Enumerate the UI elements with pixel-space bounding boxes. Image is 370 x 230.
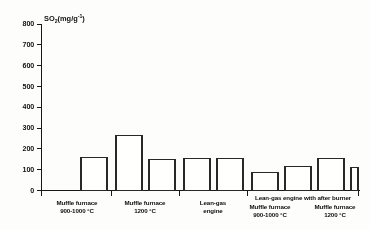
y-axis-title-end: ) [82, 14, 85, 23]
so2-bar-chart: SO2(mg/g-1) 0 100 200 300 400 500 600 70… [0, 0, 370, 230]
y-axis-title-base: SO [44, 14, 55, 23]
y-tick-label-300: 300 [23, 124, 35, 132]
y-tick-label-0: 0 [30, 187, 34, 195]
bar-9 [351, 168, 358, 191]
bar-3 [149, 159, 175, 190]
bar-5 [217, 158, 243, 190]
category-label-group-4a: Muffle furnace 900-1000 °C [250, 203, 292, 218]
bar-6 [252, 173, 278, 191]
group-4a-line-2: 900-1000 °C [253, 211, 287, 218]
y-axis-title-mid: (mg/g [58, 14, 79, 23]
category-label-group-2: Muffle furnace 1200 °C [125, 199, 167, 214]
chart-container: SO2(mg/g-1) 0 100 200 300 400 500 600 70… [0, 0, 370, 230]
y-axis-title: SO2(mg/g-1) [44, 13, 85, 24]
group-4b-line-2: 1200 °C [324, 211, 346, 218]
y-tick-label-800: 800 [23, 20, 35, 28]
y-tick-label-100: 100 [23, 166, 35, 174]
bar-series [81, 135, 358, 190]
bar-8 [318, 158, 344, 190]
group-4-header-label: Lean-gas engine with after burner [255, 194, 352, 201]
category-label-group-1: Muffle furnace 900-1000 °C [57, 199, 99, 214]
group-4b-line-1: Muffle furnace [315, 203, 357, 210]
category-label-group-4b: Muffle furnace 1200 °C [315, 203, 357, 218]
bar-1 [81, 157, 107, 190]
group-1-line-2: 900-1000 °C [60, 207, 94, 214]
y-tick-label-600: 600 [23, 62, 35, 70]
group-2-line-1: Muffle furnace [125, 199, 167, 206]
group-3-line-2: engine [203, 207, 223, 214]
y-tick-label-200: 200 [23, 145, 35, 153]
bar-4 [184, 158, 210, 190]
bar-7 [285, 167, 311, 191]
group-3-line-1: Lean-gas [200, 199, 227, 206]
group-4a-line-1: Muffle furnace [250, 203, 292, 210]
group-1-line-1: Muffle furnace [57, 199, 99, 206]
y-tick-label-500: 500 [23, 83, 35, 91]
bar-2 [116, 135, 142, 190]
y-tick-label-700: 700 [23, 41, 35, 49]
group-2-line-2: 1200 °C [134, 207, 156, 214]
category-label-group-3: Lean-gas engine [200, 199, 227, 214]
y-tick-label-400: 400 [23, 103, 35, 111]
y-axis-tick-labels: 0 100 200 300 400 500 600 700 800 [23, 20, 35, 194]
